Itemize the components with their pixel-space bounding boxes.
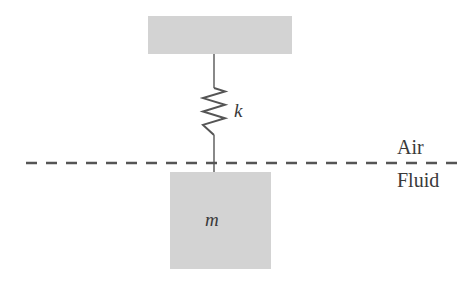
fluid-medium-label: Fluid [397,170,439,190]
mass-block [170,172,271,269]
air-medium-label: Air [397,137,424,157]
spring-constant-label: k [234,101,242,120]
mass-label: m [205,210,219,229]
physics-diagram: k m Air Fluid [0,0,476,284]
spring [203,88,225,135]
ceiling-support [148,16,292,54]
